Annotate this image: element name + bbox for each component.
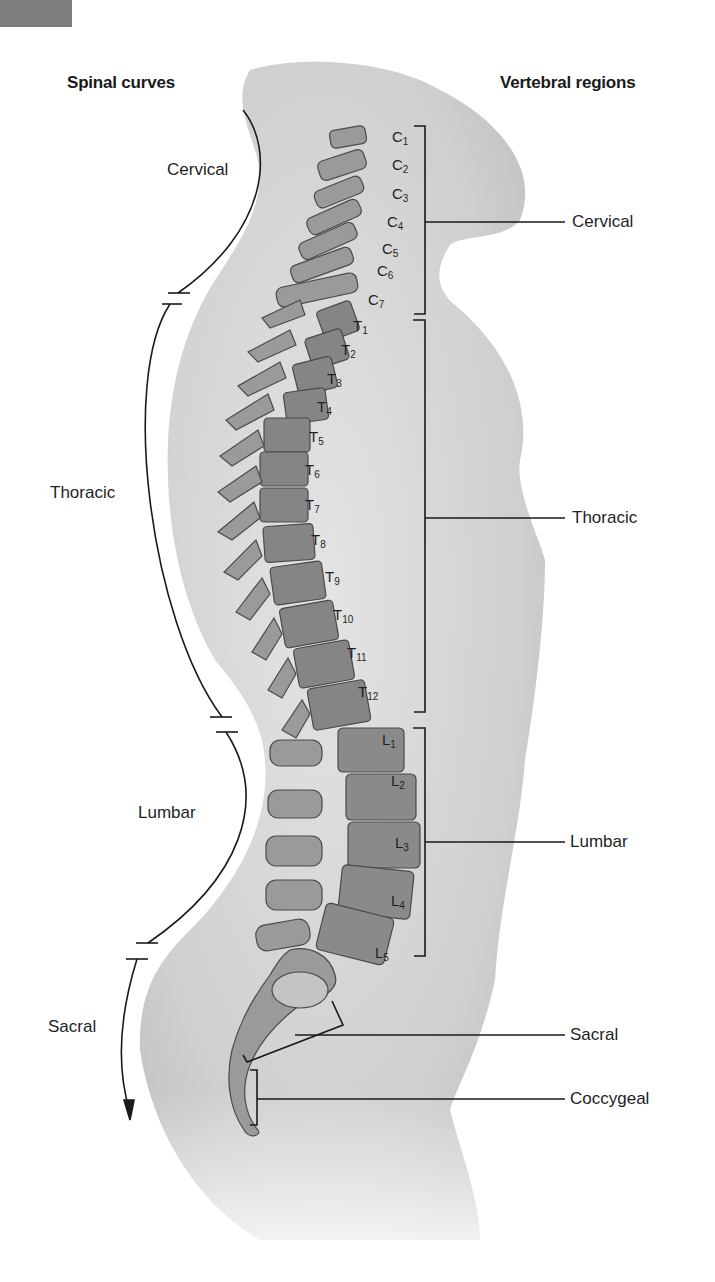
curve-label-cervical: Cervical [167, 160, 228, 180]
vertebra-label-l2: L2 [391, 772, 405, 791]
vertebra-label-l4: L4 [391, 892, 405, 911]
vertebra-label-l5: L5 [375, 944, 389, 963]
curve-label-thoracic: Thoracic [50, 483, 115, 503]
vertebra-label-t6: T6 [305, 461, 320, 480]
region-label-thoracic: Thoracic [572, 508, 637, 528]
vertebra-label-l1: L1 [382, 731, 396, 750]
vertebra-label-c4: C4 [387, 213, 403, 232]
region-label-cervical: Cervical [572, 212, 633, 232]
vertebra-label-t3: T3 [327, 370, 342, 389]
vertebra-label-t2: T2 [341, 341, 356, 360]
vertebra-label-c2: C2 [392, 156, 408, 175]
vertebra-label-c5: C5 [382, 240, 398, 259]
curve-label-sacral: Sacral [48, 1017, 96, 1037]
region-label-lumbar: Lumbar [570, 832, 628, 852]
vertebra-label-t7: T7 [305, 496, 320, 515]
curve-label-lumbar: Lumbar [138, 803, 196, 823]
vertebra-label-t8: T8 [311, 531, 326, 550]
vertebra-label-t12: T12 [358, 683, 378, 702]
vertebra-label-c6: C6 [377, 262, 393, 281]
vertebra-label-l3: L3 [395, 834, 409, 853]
vertebral-regions-heading: Vertebral regions [500, 73, 636, 93]
region-label-sacral: Sacral [570, 1025, 618, 1045]
vertebra-label-t4: T4 [317, 398, 332, 417]
vertebra-label-t1: T1 [353, 317, 368, 336]
region-label-coccygeal: Coccygeal [570, 1089, 649, 1109]
vertebra-label-c1: C1 [392, 128, 408, 147]
vertebra-label-t9: T9 [325, 568, 340, 587]
vertebra-label-t10: T10 [333, 606, 353, 625]
vertebra-label-c7: C7 [368, 291, 384, 310]
vertebra-label-t11: T11 [347, 644, 367, 663]
vertebra-label-c3: C3 [392, 185, 408, 204]
spinal-curves-heading: Spinal curves [67, 73, 175, 93]
vertebra-label-t5: T5 [309, 428, 324, 447]
